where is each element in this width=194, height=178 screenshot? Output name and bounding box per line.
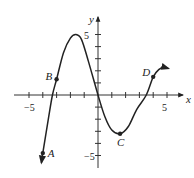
point-b xyxy=(54,77,58,81)
y-tick-label: −5 xyxy=(84,151,95,162)
point-label-c: C xyxy=(117,136,125,148)
x-tick-label: −5 xyxy=(24,102,35,113)
curve xyxy=(41,34,168,162)
x-tick-label: 5 xyxy=(162,102,167,113)
x-axis-label: x xyxy=(185,93,191,105)
axes: xy xyxy=(14,13,191,168)
y-tick-label: 5 xyxy=(84,30,89,41)
function-curve xyxy=(41,34,168,162)
point-d xyxy=(151,75,155,79)
point-label-b: B xyxy=(46,70,53,82)
point-a xyxy=(41,151,45,155)
graph-svg: xy −555−5 ABCD xyxy=(0,0,194,178)
function-graph: xy −555−5 ABCD xyxy=(0,0,194,178)
point-label-a: A xyxy=(47,147,55,159)
point-label-d: D xyxy=(141,66,150,78)
y-axis-label: y xyxy=(88,13,94,25)
